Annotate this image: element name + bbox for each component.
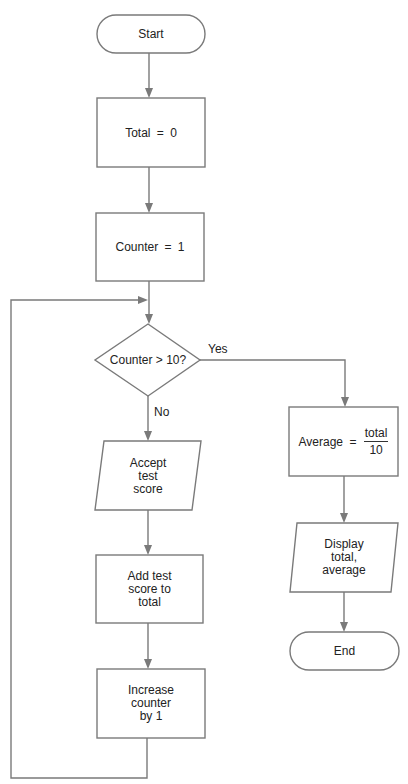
average-fraction: total 10 (364, 427, 389, 457)
arrowhead-icon (145, 314, 153, 324)
flowchart-canvas (0, 0, 408, 784)
counter-init-label: Counter = 1 (96, 241, 204, 254)
arrowhead-icon (144, 545, 152, 555)
arrowhead-icon (340, 622, 348, 632)
average-label: Average = total 10 (289, 427, 398, 457)
display-label: Display total, average (292, 538, 396, 577)
total-init-label: Total = 0 (97, 127, 205, 140)
start-label: Start (97, 28, 205, 41)
arrowhead-icon (144, 431, 152, 441)
fraction-denominator: 10 (364, 442, 389, 457)
no-label: No (154, 406, 169, 419)
decision-label: Counter > 10? (100, 354, 196, 367)
yes-label: Yes (208, 343, 228, 356)
arrowhead-icon (145, 88, 153, 98)
fraction-numerator: total (364, 427, 389, 442)
arrowhead-icon (341, 397, 349, 407)
arrowhead-icon (340, 513, 348, 523)
connector-yes-branch (200, 360, 345, 401)
average-prefix: Average = (299, 435, 357, 449)
add-score-label: Add test score to total (96, 570, 203, 609)
increase-counter-label: Increase counter by 1 (97, 684, 205, 723)
arrowhead-icon (145, 203, 153, 213)
arrowhead-icon (144, 659, 152, 669)
end-label: End (290, 645, 399, 658)
accept-label: Accept test score (97, 457, 199, 496)
arrowhead-icon (138, 296, 148, 304)
